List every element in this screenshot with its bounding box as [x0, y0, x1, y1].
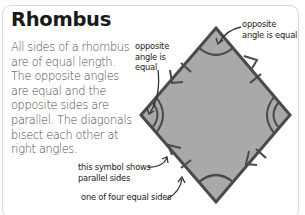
label-equal-side: one of four equal sides [81, 192, 171, 203]
label-parallel-symbol: this symbol shows parallel sides [78, 162, 151, 183]
pointer-arrow-parallel [148, 158, 167, 167]
label-opposite-angle-left: opposite angle is equal [135, 41, 169, 73]
label-opposite-angle-top: opposite angle is equal [242, 19, 297, 40]
